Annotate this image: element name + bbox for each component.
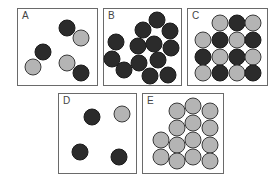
dark-particle-icon	[245, 32, 262, 49]
dark-particle-icon	[162, 23, 179, 40]
light-particle-icon	[153, 132, 170, 149]
light-particle-icon	[212, 49, 229, 66]
light-particle-icon	[229, 32, 246, 49]
light-particle-icon	[202, 153, 219, 170]
light-particle-icon	[185, 115, 202, 132]
dark-particle-icon	[229, 15, 246, 32]
panel-label: B	[108, 11, 115, 21]
light-particle-icon	[185, 132, 202, 149]
light-particle-icon	[229, 65, 246, 82]
light-particle-icon	[169, 153, 186, 170]
light-particle-icon	[169, 103, 186, 120]
dark-particle-icon	[160, 67, 177, 84]
light-particle-icon	[245, 49, 262, 66]
light-particle-icon	[114, 106, 131, 123]
light-particle-icon	[195, 65, 212, 82]
dark-particle-icon	[130, 38, 147, 55]
light-particle-icon	[185, 149, 202, 166]
light-particle-icon	[185, 98, 202, 115]
light-particle-icon	[25, 59, 42, 76]
panel-label: C	[192, 11, 199, 21]
dark-particle-icon	[150, 52, 167, 69]
light-particle-icon	[195, 32, 212, 49]
light-particle-icon	[169, 120, 186, 137]
light-particle-icon	[245, 15, 262, 32]
dark-particle-icon	[73, 65, 90, 82]
light-particle-icon	[212, 15, 229, 32]
light-particle-icon	[202, 120, 219, 137]
light-particle-icon	[169, 137, 186, 154]
dark-particle-icon	[35, 44, 52, 61]
light-particle-icon	[153, 149, 170, 166]
dark-particle-icon	[72, 144, 89, 161]
light-particle-icon	[202, 137, 219, 154]
dark-particle-icon	[212, 32, 229, 49]
panel-label: E	[147, 96, 154, 106]
dark-particle-icon	[116, 62, 133, 79]
panel-label: D	[63, 96, 70, 106]
dark-particle-icon	[229, 49, 246, 66]
dark-particle-icon	[163, 40, 180, 57]
dark-particle-icon	[84, 109, 101, 126]
dark-particle-icon	[108, 34, 125, 51]
dark-particle-icon	[212, 65, 229, 82]
dark-particle-icon	[111, 149, 128, 166]
dark-particle-icon	[142, 68, 159, 85]
dark-particle-icon	[245, 65, 262, 82]
panel-label: A	[22, 11, 29, 21]
dark-particle-icon	[195, 49, 212, 66]
light-particle-icon	[73, 30, 90, 47]
dark-particle-icon	[146, 36, 163, 53]
light-particle-icon	[202, 103, 219, 120]
